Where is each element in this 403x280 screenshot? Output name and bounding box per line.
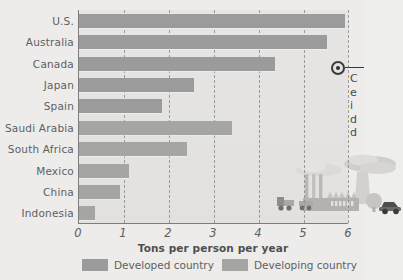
x-tick-1: 1 [119, 226, 126, 240]
factory-illustration-icon [275, 148, 403, 228]
x-tick-6: 6 [344, 226, 351, 240]
legend-swatch-developed [82, 259, 108, 271]
bar-china [79, 185, 120, 199]
legend-item-developing: Developing country [222, 259, 357, 271]
x-tick-2: 2 [164, 226, 171, 240]
bar-indonesia [79, 206, 95, 220]
y-axis-category-labels: U.S.AustraliaCanadaJapanSpainSaudi Arabi… [0, 10, 74, 224]
legend-label-developed: Developed country [114, 259, 214, 271]
y-label-saudi-arabia: Saudi Arabia [0, 122, 74, 134]
y-label-south-africa: South Africa [0, 143, 74, 155]
bar-japan [79, 78, 194, 92]
bar-south-africa [79, 142, 187, 156]
bar-u-s [79, 14, 345, 28]
y-label-mexico: Mexico [0, 165, 74, 177]
legend-label-developing: Developing country [254, 259, 357, 271]
gridline-6 [348, 10, 349, 223]
y-label-canada: Canada [0, 58, 74, 70]
x-tick-4: 4 [254, 226, 261, 240]
legend-swatch-developing [222, 259, 248, 271]
y-label-australia: Australia [0, 36, 74, 48]
y-label-japan: Japan [0, 79, 74, 91]
bar-australia [79, 35, 327, 49]
chart-legend: Developed country Developing country [78, 259, 364, 277]
callout-target-icon [331, 61, 345, 75]
x-tick-3: 3 [209, 226, 216, 240]
y-label-indonesia: Indonesia [0, 207, 74, 219]
x-tick-5: 5 [299, 226, 306, 240]
callout-leader-line [345, 67, 364, 68]
y-label-china: China [0, 186, 74, 198]
x-tick-0: 0 [74, 226, 81, 240]
callout-text: C e i d d [350, 72, 390, 140]
legend-item-developed: Developed country [82, 259, 214, 271]
y-label-u-s: U.S. [0, 15, 74, 27]
bar-spain [79, 99, 162, 113]
bar-canada [79, 57, 275, 71]
bar-saudi-arabia [79, 121, 232, 135]
plot-area [78, 10, 348, 224]
bar-mexico [79, 164, 129, 178]
y-label-spain: Spain [0, 100, 74, 112]
x-axis-title: Tons per person per year [78, 242, 348, 254]
